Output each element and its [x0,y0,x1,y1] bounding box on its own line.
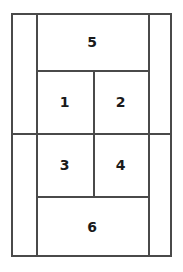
region-1[interactable]: 1 [36,70,93,133]
region-2[interactable]: 2 [93,70,148,133]
region-right-margin[interactable] [148,13,172,257]
region-2-label: 2 [116,95,126,109]
region-1-label: 1 [60,95,70,109]
region-5[interactable]: 5 [36,13,148,70]
region-3[interactable]: 3 [36,133,93,196]
region-4-label: 4 [116,158,126,172]
region-left-margin[interactable] [11,13,36,257]
region-4[interactable]: 4 [93,133,148,196]
region-3-label: 3 [60,158,70,172]
region-5-label: 5 [87,35,97,49]
diagram-canvas: 123456 [0,0,183,272]
region-6[interactable]: 6 [36,196,148,257]
region-6-label: 6 [87,220,97,234]
